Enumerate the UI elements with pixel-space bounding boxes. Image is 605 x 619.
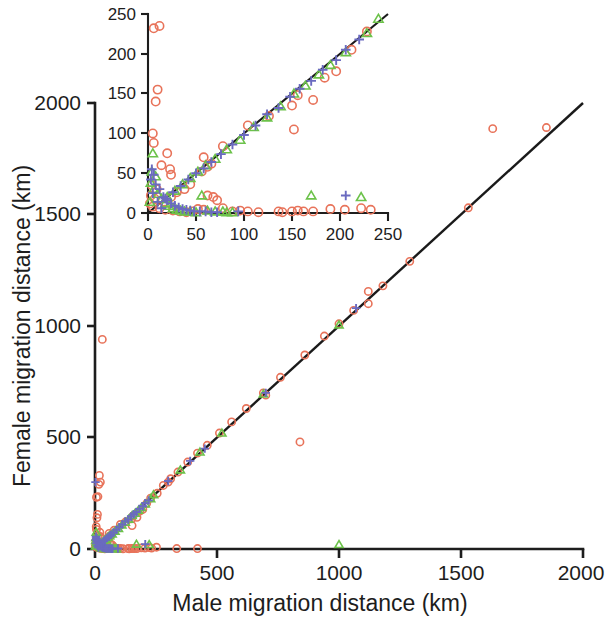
inset-ytick-label-250: 250	[108, 5, 136, 24]
y-axis-title: Female migration distance (km)	[9, 165, 35, 487]
main-ytick-label-2000: 2000	[34, 91, 81, 114]
inset-xtick-label-250: 250	[374, 225, 402, 244]
inset-xtick-label-200: 200	[326, 225, 354, 244]
main-xtick-label-2000: 2000	[558, 561, 605, 584]
data-point-circle	[489, 125, 496, 132]
inset-xtick-label-100: 100	[230, 225, 258, 244]
inset-ytick-label-0: 0	[127, 204, 136, 223]
main-ytick-label-1000: 1000	[34, 314, 81, 337]
data-point-circle	[543, 124, 550, 131]
main-xtick-label-1000: 1000	[316, 561, 363, 584]
inset-ytick-label-200: 200	[108, 45, 136, 64]
inset-xtick-label-150: 150	[278, 225, 306, 244]
inset-xtick-label-50: 50	[187, 225, 206, 244]
main-ytick-label-0: 0	[69, 537, 81, 560]
data-point-triangle	[335, 541, 343, 548]
inset-ytick-label-50: 50	[117, 164, 136, 183]
main-x-ticks	[95, 549, 583, 558]
main-ytick-label-1500: 1500	[34, 202, 81, 225]
data-point-circle	[99, 336, 106, 343]
main-xtick-label-1500: 1500	[438, 561, 485, 584]
inset-ytick-label-100: 100	[108, 124, 136, 143]
main-xtick-label-500: 500	[199, 561, 234, 584]
plot-canvas: 0 500 1000 1500 2000 0 500 1000 1500 200…	[0, 0, 605, 619]
data-point-circle	[365, 288, 372, 295]
scatter-figure: 0 500 1000 1500 2000 0 500 1000 1500 200…	[0, 0, 605, 619]
inset-xtick-label-0: 0	[143, 225, 152, 244]
main-xtick-label-0: 0	[89, 561, 101, 584]
data-point-circle	[296, 438, 303, 445]
inset-ytick-label-150: 150	[108, 84, 136, 103]
data-point-circle	[365, 300, 372, 307]
main-ytick-label-500: 500	[46, 425, 81, 448]
x-axis-title: Male migration distance (km)	[172, 590, 467, 616]
data-point-plus	[352, 304, 360, 312]
